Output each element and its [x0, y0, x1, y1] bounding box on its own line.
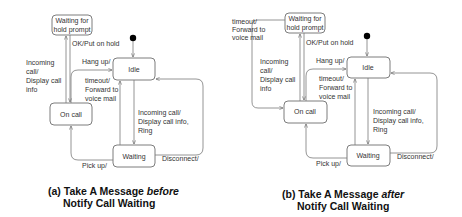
state-label: Waiting for	[55, 17, 89, 25]
transition-label: voice mail	[319, 93, 351, 100]
state-waiting: Waiting	[347, 145, 390, 166]
state-label: On call	[294, 108, 316, 115]
state-label: Idle	[362, 64, 373, 71]
state-waiting-for-hold-prompt: Waiting for hold prompt	[52, 15, 92, 35]
transition-label: Hang up/	[316, 57, 344, 65]
caption-line2: Notify Call Waiting	[63, 197, 155, 209]
caption-line2: Notify Call Waiting	[297, 200, 389, 212]
transition-label: voice mail	[85, 95, 117, 102]
transition-label: info	[260, 85, 271, 92]
state-label: On call	[60, 111, 82, 118]
state-waiting-for-hold-prompt: Waiting for hold prompt	[285, 13, 325, 33]
diagram-b: Waiting for hold prompt Idle On call Wai…	[232, 13, 437, 212]
initial-state-dot	[364, 33, 370, 39]
arrow-waiting-to-idle-disconnect	[155, 79, 203, 155]
state-label: hold prompt	[54, 26, 91, 34]
transition-label: Disconnect/	[162, 155, 199, 162]
transition-label: Forward to	[85, 86, 119, 93]
state-idle: Idle	[113, 58, 155, 80]
caption-line1: (b) Take A Message after	[282, 188, 405, 200]
transition-label: Display call info,	[138, 118, 189, 126]
transition-label: Display call	[26, 77, 62, 85]
transition-label: call/	[260, 67, 273, 74]
state-label: Waiting	[356, 152, 379, 160]
transition-label: Pick up/	[82, 162, 107, 170]
transition-label: Incoming	[26, 59, 55, 67]
transition-label: OK/Put on hold	[72, 40, 120, 47]
transition-label: Pick up/	[316, 160, 341, 168]
state-on-call: On call	[50, 103, 92, 125]
diagram-a: Waiting for hold prompt Idle On call Wai…	[26, 15, 203, 209]
transition-label: voice mail	[232, 34, 264, 41]
transition-label: Disconnect/	[397, 153, 434, 160]
state-label: Waiting for	[288, 15, 322, 23]
transition-label: OK/Put on hold	[306, 39, 354, 46]
state-diagrams: Waiting for hold prompt Idle On call Wai…	[0, 0, 462, 217]
transition-label: Incoming call/	[138, 109, 181, 117]
transition-label: Ring	[373, 126, 388, 134]
transition-label: Ring	[138, 127, 153, 135]
state-label: hold prompt	[287, 24, 324, 32]
transition-label: Forward to	[319, 84, 353, 91]
state-waiting: Waiting	[113, 145, 155, 167]
transition-label: Incoming call/	[373, 108, 416, 116]
transition-label: Hang up/	[82, 58, 110, 66]
state-idle: Idle	[347, 57, 390, 78]
state-on-call: On call	[284, 101, 327, 123]
transition-label: Incoming	[260, 58, 289, 66]
transition-label: Forward to	[232, 26, 266, 33]
transition-label: timeout/	[319, 75, 344, 82]
state-label: Waiting	[122, 153, 145, 161]
arrow-waiting-to-oncall-pickup	[306, 124, 347, 158]
initial-state-dot	[130, 35, 136, 41]
transition-label: timeout/	[232, 18, 257, 25]
arrow-waiting-to-oncall-pickup	[71, 126, 113, 160]
transition-label: timeout/	[85, 77, 110, 84]
caption-line1: (a) Take A Message before	[48, 185, 179, 197]
state-label: Idle	[128, 66, 139, 73]
transition-label: Display call info,	[373, 117, 424, 125]
transition-label: info	[26, 86, 37, 93]
transition-label: Display call	[260, 76, 296, 84]
transition-label: call/	[26, 68, 39, 75]
